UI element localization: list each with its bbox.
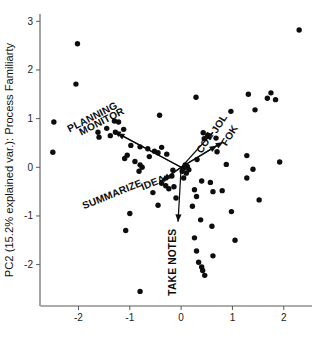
data-point — [121, 127, 126, 132]
loading-vector-line — [117, 133, 181, 167]
data-point — [209, 223, 214, 228]
x-tick-label: -1 — [125, 312, 134, 323]
y-tick-label: 0 — [27, 162, 33, 173]
data-point — [155, 203, 160, 208]
data-point — [95, 130, 100, 135]
data-point — [122, 156, 127, 161]
data-point — [194, 194, 199, 199]
data-point — [200, 268, 205, 273]
x-tick-label: -2 — [74, 312, 83, 323]
vector-label: TAKE NOTES — [167, 229, 178, 296]
data-point — [157, 113, 162, 118]
data-point — [196, 260, 201, 265]
data-point — [192, 187, 197, 192]
y-tick-label: 3 — [27, 16, 33, 27]
vector-label: IDEA — [139, 173, 167, 193]
data-point — [173, 195, 178, 200]
data-point — [268, 90, 273, 95]
data-point — [210, 189, 215, 194]
data-point — [229, 209, 234, 214]
pca-biplot: PLANNINGMONITORSUMMARIZEIDEATAKE NOTESJO… — [0, 0, 318, 340]
data-point — [208, 180, 213, 185]
data-point — [228, 109, 233, 114]
data-point — [250, 167, 255, 172]
data-point — [181, 175, 186, 180]
y-tick-label: -2 — [24, 259, 33, 270]
data-point — [277, 159, 282, 164]
data-point — [116, 119, 121, 124]
data-point — [198, 217, 203, 222]
data-point — [246, 92, 251, 97]
data-point — [136, 168, 141, 173]
data-point — [159, 145, 164, 150]
data-point — [192, 235, 197, 240]
axis-titles-layer: PC2 (15.2% explained var.): Process Fami… — [3, 42, 15, 277]
data-point — [296, 27, 301, 32]
y-axis-title: PC2 (15.2% explained var.): Process Fami… — [3, 42, 15, 277]
data-point — [137, 289, 142, 294]
data-point — [147, 154, 152, 159]
data-point — [50, 150, 55, 155]
tick-labels-layer: -2-1012-2-10123 — [24, 16, 287, 323]
y-tick-label: 2 — [27, 64, 33, 75]
data-point — [199, 178, 204, 183]
data-point — [73, 81, 78, 86]
data-point — [132, 159, 137, 164]
data-point — [171, 184, 176, 189]
data-point — [265, 95, 270, 100]
data-point — [96, 134, 101, 139]
data-point — [252, 107, 257, 112]
data-point — [202, 273, 207, 278]
data-point — [193, 95, 198, 100]
vector-labels-layer: PLANNINGMONITORSUMMARIZEIDEATAKE NOTESJO… — [65, 100, 240, 296]
data-point — [150, 190, 155, 195]
x-tick-label: 1 — [230, 312, 236, 323]
data-point — [108, 133, 113, 138]
data-point — [166, 186, 171, 191]
loading-vector-arrowhead — [175, 214, 181, 222]
data-point — [190, 204, 195, 209]
data-point — [164, 151, 169, 156]
data-point — [244, 175, 249, 180]
data-point — [219, 188, 224, 193]
y-tick-label: 1 — [27, 113, 33, 124]
data-point — [194, 248, 199, 253]
data-point — [232, 238, 237, 243]
data-point — [224, 162, 229, 167]
x-tick-label: 2 — [281, 312, 287, 323]
data-point — [273, 97, 278, 102]
vector-label: SUMMARIZE — [81, 177, 144, 211]
data-point — [214, 149, 219, 154]
loading-vector-line — [178, 167, 181, 222]
data-point — [184, 170, 189, 175]
x-tick-label: 0 — [178, 312, 184, 323]
data-point — [104, 126, 109, 131]
data-point — [75, 41, 80, 46]
data-point — [210, 253, 215, 258]
data-point — [127, 211, 132, 216]
data-point — [128, 143, 133, 148]
data-point — [244, 153, 249, 158]
y-tick-label: -1 — [24, 210, 33, 221]
data-point — [123, 228, 128, 233]
data-point — [51, 119, 56, 124]
data-point — [256, 197, 261, 202]
chart-page: PLANNINGMONITORSUMMARIZEIDEATAKE NOTESJO… — [0, 0, 318, 340]
